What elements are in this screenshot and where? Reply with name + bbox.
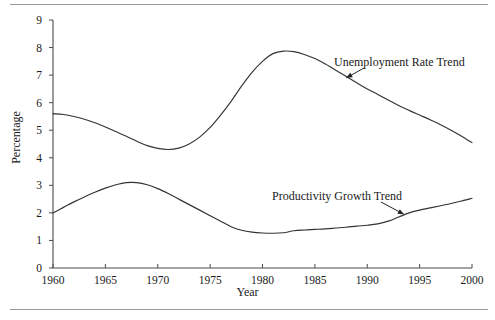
- y-tick-label: 6: [26, 97, 42, 109]
- y-axis-title: Percentage: [9, 98, 24, 178]
- y-tick-label: 5: [26, 124, 42, 136]
- y-tick-label: 0: [26, 262, 42, 274]
- data-series-group: [53, 51, 472, 233]
- y-axis-ticks: [49, 20, 53, 268]
- y-tick-label: 7: [26, 69, 42, 81]
- x-axis-title: Year: [0, 285, 495, 300]
- y-tick-label: 8: [26, 42, 42, 54]
- annotation-unemployment-rate-trend: Unemployment Rate Trend: [334, 55, 465, 70]
- y-tick-label: 4: [26, 152, 42, 164]
- x-axis-ticks: [53, 264, 472, 268]
- y-tick-label: 2: [26, 207, 42, 219]
- line-chart-plot: [0, 0, 495, 320]
- annotation-productivity-growth-trend: Productivity Growth Trend: [272, 189, 402, 204]
- y-tick-label: 1: [26, 234, 42, 246]
- series-line-productivity-growth-trend: [53, 182, 472, 233]
- chart-figure: 0123456789 19601965197019751980198519901…: [0, 0, 495, 320]
- y-tick-label: 9: [26, 14, 42, 26]
- y-tick-label: 3: [26, 179, 42, 191]
